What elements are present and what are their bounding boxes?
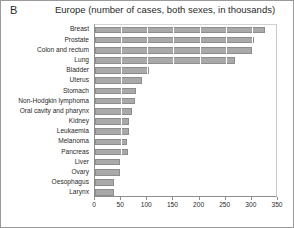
- category-label: Non-Hodgkin lymphoma: [18, 97, 89, 104]
- bar-row: [95, 117, 276, 127]
- bar-row: [95, 178, 276, 188]
- bar-row: [95, 106, 276, 116]
- bar-row: [95, 147, 276, 157]
- category-label: Liver: [75, 158, 89, 165]
- axis-tick-label: 250: [219, 201, 230, 209]
- bar-row: [95, 35, 276, 45]
- bar: [95, 88, 136, 95]
- gridline: [121, 25, 122, 196]
- bar-row: [95, 137, 276, 147]
- bar: [95, 179, 114, 186]
- chart-figure: B Europe (number of cases, both sexes, i…: [0, 0, 294, 228]
- category-label: Stomach: [63, 87, 89, 94]
- category-label: Larynx: [69, 188, 89, 195]
- axis-tick-label: 300: [245, 201, 256, 209]
- axis-tick-label: 350: [271, 201, 282, 209]
- bar: [95, 37, 254, 44]
- panel-label: B: [10, 4, 18, 16]
- axis-tick-label: 50: [116, 201, 123, 209]
- category-label: Leukaemia: [57, 127, 89, 134]
- bar-row: [95, 157, 276, 167]
- bar: [95, 98, 135, 105]
- axis-tick-mark: [277, 197, 278, 200]
- category-label: Oesophagus: [52, 178, 89, 185]
- bar-row: [95, 127, 276, 137]
- bar-row: [95, 45, 276, 55]
- bar: [95, 77, 142, 84]
- bar: [95, 118, 129, 125]
- category-label: Ovary: [71, 168, 89, 175]
- axis-tick-label: 150: [167, 201, 178, 209]
- category-label: Bladder: [66, 66, 89, 73]
- gridline: [252, 25, 253, 196]
- value-axis: 050100150200250300350: [94, 197, 278, 217]
- category-label: Prostate: [64, 36, 89, 43]
- bar: [95, 159, 120, 166]
- category-label: Pancreas: [61, 148, 89, 155]
- bar-row: [95, 56, 276, 66]
- bar-row: [95, 66, 276, 76]
- gridline: [226, 25, 227, 196]
- category-label: Oral cavity and pharynx: [20, 107, 89, 114]
- chart-title: Europe (number of cases, both sexes, in …: [41, 4, 289, 15]
- gridline: [173, 25, 174, 196]
- gridline: [200, 25, 201, 196]
- bar-row: [95, 76, 276, 86]
- chart-header: B Europe (number of cases, both sexes, i…: [1, 3, 294, 19]
- bar-row: [95, 25, 276, 35]
- bar-row: [95, 188, 276, 198]
- bar-series: [95, 25, 276, 196]
- bar: [95, 189, 114, 196]
- bar-row: [95, 96, 276, 106]
- bar: [95, 149, 128, 156]
- bar: [95, 128, 129, 135]
- axis-tick-label: 100: [141, 201, 152, 209]
- category-label: Uterus: [70, 76, 89, 83]
- plot-area: [94, 24, 277, 197]
- axis-tick-label: 200: [193, 201, 204, 209]
- bar: [95, 169, 120, 176]
- bar: [95, 108, 132, 115]
- category-label: Kidney: [69, 117, 89, 124]
- category-axis-labels: BreastProstateColon and rectumLungBladde…: [1, 24, 91, 197]
- bar: [95, 57, 235, 64]
- category-label: Breast: [70, 25, 89, 32]
- bar-row: [95, 167, 276, 177]
- bar-row: [95, 86, 276, 96]
- category-label: Lung: [74, 56, 89, 63]
- gridline: [147, 25, 148, 196]
- axis-tick-label: 0: [92, 201, 96, 209]
- category-label: Melanoma: [58, 137, 89, 144]
- category-label: Colon and rectum: [37, 46, 89, 53]
